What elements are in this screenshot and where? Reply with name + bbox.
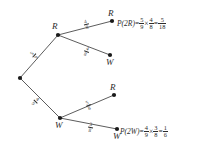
node-first-red — [56, 33, 60, 37]
node-label-rw: W — [106, 58, 114, 67]
equation-p2r-factor2: 48 — [149, 17, 154, 31]
equation-p2w: P(2W)=49×38=16 — [120, 125, 168, 139]
fraction-denominator: 8 — [149, 23, 154, 30]
fraction-denominator: 9 — [139, 23, 144, 30]
fraction-denominator: 18 — [158, 23, 166, 30]
fraction-denominator: 6 — [163, 131, 168, 138]
node-label-wr: R — [110, 83, 116, 92]
equation-p2w-label: P(2W) — [120, 127, 140, 136]
equation-p2w-result: 16 — [163, 125, 168, 139]
equation-p2r: P(2R)=59×48=518 — [117, 17, 166, 31]
equation-p2r-factor1: 59 — [139, 17, 144, 31]
probability-tree-diagram: R W R W R W 5 9 4 9 4 8 4 8 5 8 — [0, 0, 206, 153]
fraction-denominator: 9 — [144, 131, 149, 138]
fraction-denominator: 8 — [153, 131, 158, 138]
node-label-rr: R — [108, 9, 114, 18]
branch-lines — [20, 21, 117, 129]
equation-p2r-label: P(2R) — [117, 19, 135, 28]
equation-p2w-factor2: 38 — [153, 125, 158, 139]
node-label-first-red: R — [52, 22, 58, 31]
node-root — [18, 76, 22, 80]
tree-lines-svg — [0, 0, 206, 153]
equation-p2w-factor1: 49 — [144, 125, 149, 139]
node-rr — [110, 19, 114, 23]
node-wr — [112, 93, 116, 97]
node-label-first-white: W — [55, 121, 63, 130]
equation-p2r-result: 518 — [158, 17, 166, 31]
